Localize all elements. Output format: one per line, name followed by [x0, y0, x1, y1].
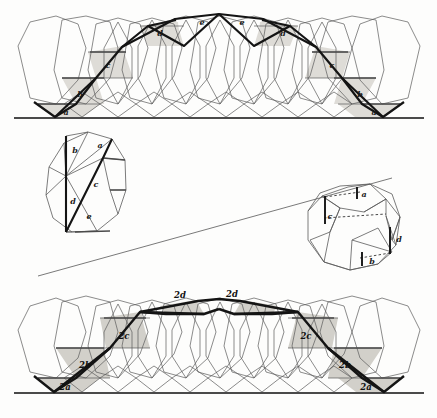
- mid-right-lattice: [308, 184, 400, 270]
- top-label-b-left: b: [77, 89, 83, 99]
- mid-left-labels: b a c d e: [70, 140, 102, 221]
- midleft-label-e: e: [86, 211, 91, 221]
- bottom-label-2c-left: 2c: [117, 331, 130, 341]
- mid-left-polygon-panel: b a c d e: [46, 132, 126, 232]
- midleft-label-c: c: [94, 179, 99, 189]
- top-label-c-right: c: [330, 60, 335, 70]
- mid-left-chord-accents: [75, 158, 126, 232]
- top-label-b-right: b: [357, 89, 363, 99]
- top-label-d-right: d: [280, 28, 286, 38]
- midright-label-a: a: [361, 189, 366, 199]
- geometric-diagram-svg: a b c d e e d c b a: [0, 0, 437, 418]
- mid-right-labels: a c d b: [328, 189, 403, 266]
- bottom-label-2a-right: 2a: [359, 382, 371, 392]
- bottom-label-2d-right: 2d: [225, 289, 238, 299]
- figure-root: a b c d e e d c b a: [0, 0, 437, 418]
- mid-right-measure-ticks: [325, 187, 390, 266]
- top-label-d-left: d: [157, 28, 163, 38]
- midleft-label-a: a: [97, 140, 102, 150]
- bottom-label-2d-left: 2d: [173, 290, 186, 300]
- bottom-label-2b-right: 2b: [338, 360, 351, 370]
- bottom-label-2c-right: 2c: [299, 331, 312, 341]
- diagonal-divider-line: [38, 178, 392, 276]
- top-label-a-right: a: [371, 107, 376, 117]
- top-label-e-right: e: [239, 17, 244, 27]
- bottom-label-2a-left: 2a: [58, 382, 70, 392]
- midleft-label-b: b: [72, 145, 78, 155]
- midright-label-d: d: [396, 234, 402, 244]
- top-label-a-left: a: [63, 107, 68, 117]
- top-label-e-left: e: [199, 17, 204, 27]
- bottom-band-panel: 2a 2b 2c 2d 2d 2c 2b 2a: [14, 289, 424, 394]
- top-label-c-left: c: [106, 60, 111, 70]
- midright-label-b: b: [369, 256, 375, 266]
- bottom-label-2b-left: 2b: [78, 360, 91, 370]
- top-band-panel: a b c d e e d c b a: [14, 14, 424, 118]
- midright-label-c: c: [328, 211, 333, 221]
- midleft-label-d: d: [70, 196, 76, 206]
